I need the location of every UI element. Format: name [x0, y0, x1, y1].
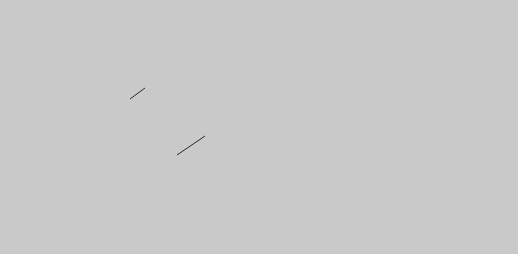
chart-figure — [0, 0, 518, 254]
chart-svg — [0, 0, 518, 254]
figure-background — [0, 0, 518, 254]
